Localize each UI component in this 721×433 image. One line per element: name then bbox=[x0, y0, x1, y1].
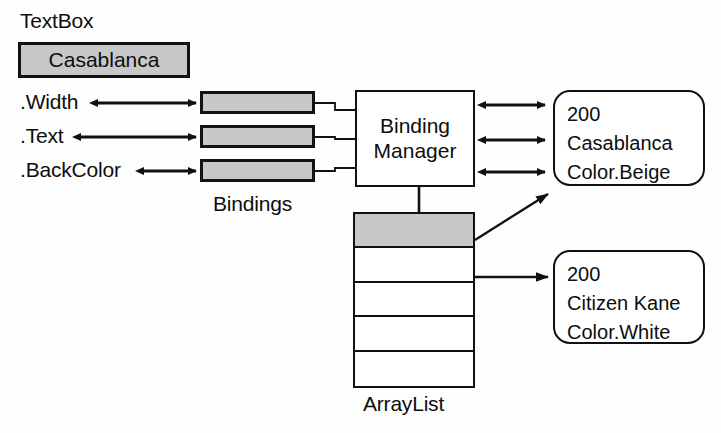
value-box-bottom-line-1: 200 bbox=[567, 260, 703, 289]
arraylist-cell-3[interactable] bbox=[355, 317, 473, 351]
value-box-next-item[interactable]: 200 Citizen Kane Color.White bbox=[553, 250, 705, 344]
arraylist-cell-4[interactable] bbox=[355, 352, 473, 386]
diagram-canvas: TextBox Casablanca .Width .Text .BackCol… bbox=[0, 0, 721, 433]
arraylist-cell-0[interactable] bbox=[355, 214, 473, 248]
value-box-top-line-2: Casablanca bbox=[567, 129, 703, 158]
bindings-caption: Bindings bbox=[213, 193, 292, 214]
value-box-bottom-line-2: Citizen Kane bbox=[567, 289, 703, 318]
value-box-top-line-3: Color.Beige bbox=[567, 158, 703, 187]
property-label-text: .Text bbox=[20, 125, 63, 146]
arraylist-caption: ArrayList bbox=[363, 393, 444, 414]
arraylist-cell-1[interactable] bbox=[355, 248, 473, 282]
binding-manager-label-line-1: Binding bbox=[380, 114, 450, 139]
value-box-current-item[interactable]: 200 Casablanca Color.Beige bbox=[553, 90, 705, 186]
property-label-width: .Width bbox=[20, 91, 78, 112]
binding-manager-label-line-2: Manager bbox=[374, 139, 457, 164]
property-label-backcolor: .BackColor bbox=[20, 159, 121, 180]
textbox-caption: TextBox bbox=[20, 10, 93, 31]
binding-box-width[interactable] bbox=[200, 91, 315, 114]
value-box-top-line-1: 200 bbox=[567, 100, 703, 129]
value-box-bottom-line-3: Color.White bbox=[567, 318, 703, 347]
arraylist-box[interactable] bbox=[353, 212, 475, 388]
binding-manager-box[interactable]: Binding Manager bbox=[355, 90, 475, 187]
link-backcolor-to-manager bbox=[315, 168, 355, 171]
arrow-cell1-to-value-box-top bbox=[475, 194, 548, 240]
link-width-to-manager bbox=[315, 103, 355, 110]
textbox-field[interactable]: Casablanca bbox=[18, 42, 190, 78]
link-text-to-manager bbox=[315, 137, 355, 139]
textbox-value: Casablanca bbox=[21, 48, 187, 72]
binding-box-text[interactable] bbox=[200, 125, 315, 148]
arraylist-cell-2[interactable] bbox=[355, 283, 473, 317]
binding-box-backcolor[interactable] bbox=[200, 159, 315, 182]
